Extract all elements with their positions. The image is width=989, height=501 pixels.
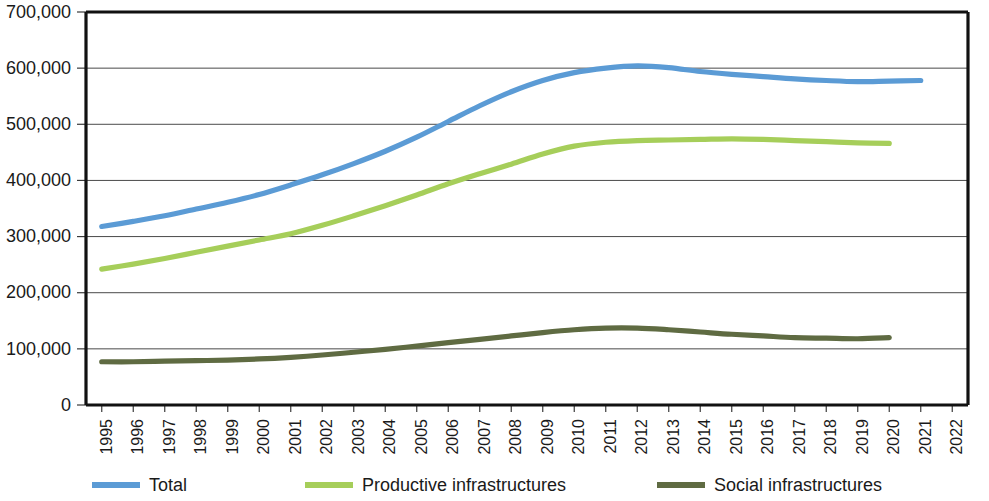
line-chart: 0100,000200,000300,000400,000500,000600,… bbox=[0, 0, 989, 501]
x-axis-tick-labels: 1995199619971998199920002001200220032004… bbox=[98, 419, 966, 455]
x-axis-tick-label: 2001 bbox=[287, 419, 304, 455]
series-line-total bbox=[102, 66, 921, 227]
x-axis-tick-label: 2015 bbox=[728, 419, 745, 455]
legend-label: Productive infrastructures bbox=[362, 475, 566, 495]
y-axis-tick-label: 600,000 bbox=[6, 58, 71, 78]
series-line-social-infrastructures bbox=[102, 328, 890, 362]
x-axis-tick-label: 2004 bbox=[381, 419, 398, 455]
x-axis-tick-label: 1998 bbox=[192, 419, 209, 455]
x-axis-tick-label: 2009 bbox=[539, 419, 556, 455]
x-axis-tick-label: 2012 bbox=[633, 419, 650, 455]
data-series-group bbox=[102, 66, 921, 362]
x-axis-tick-label: 2006 bbox=[444, 419, 461, 455]
chart-canvas: 0100,000200,000300,000400,000500,000600,… bbox=[0, 0, 989, 501]
x-axis-tick-label: 2022 bbox=[948, 419, 965, 455]
y-axis-tick-label: 300,000 bbox=[6, 226, 71, 246]
plot-frame bbox=[86, 12, 968, 405]
x-axis-tick-label: 2017 bbox=[791, 419, 808, 455]
x-axis-tick-label: 1999 bbox=[224, 419, 241, 455]
x-axis-tick-label: 1996 bbox=[129, 419, 146, 455]
y-axis-tick-labels: 0100,000200,000300,000400,000500,000600,… bbox=[6, 2, 71, 415]
x-axis-tick-label: 2003 bbox=[350, 419, 367, 455]
x-axis-tick-label: 2008 bbox=[507, 419, 524, 455]
chart-legend: TotalProductive infrastructuresSocial in… bbox=[92, 475, 882, 495]
y-axis-tick-label: 500,000 bbox=[6, 114, 71, 134]
y-axis-tick-label: 100,000 bbox=[6, 339, 71, 359]
y-axis-tick-label: 400,000 bbox=[6, 170, 71, 190]
x-axis-tick-label: 2010 bbox=[570, 419, 587, 455]
y-axis-tick-label: 200,000 bbox=[6, 282, 71, 302]
x-axis-tick-label: 2000 bbox=[255, 419, 272, 455]
x-axis-tick-label: 2002 bbox=[318, 419, 335, 455]
x-axis-tick-label: 2011 bbox=[602, 419, 619, 454]
x-axis-tick-label: 1997 bbox=[161, 419, 178, 455]
legend-label: Social infrastructures bbox=[714, 475, 882, 495]
x-axis-tick-label: 1995 bbox=[98, 419, 115, 455]
x-axis-tick-label: 2013 bbox=[665, 419, 682, 455]
legend-label: Total bbox=[149, 475, 187, 495]
y-axis-tick-label: 700,000 bbox=[6, 2, 71, 22]
y-axis-tick-label: 0 bbox=[61, 395, 71, 415]
x-axis-tick-label: 2019 bbox=[854, 419, 871, 455]
x-axis-tick-label: 2005 bbox=[413, 419, 430, 455]
x-axis-tick-label: 2014 bbox=[696, 419, 713, 455]
x-axis-tick-label: 2018 bbox=[822, 419, 839, 455]
x-axis-tick-label: 2007 bbox=[476, 419, 493, 455]
x-axis-tick-label: 2021 bbox=[917, 419, 934, 455]
x-axis-tick-label: 2016 bbox=[759, 419, 776, 455]
x-axis-tick-label: 2020 bbox=[885, 419, 902, 455]
